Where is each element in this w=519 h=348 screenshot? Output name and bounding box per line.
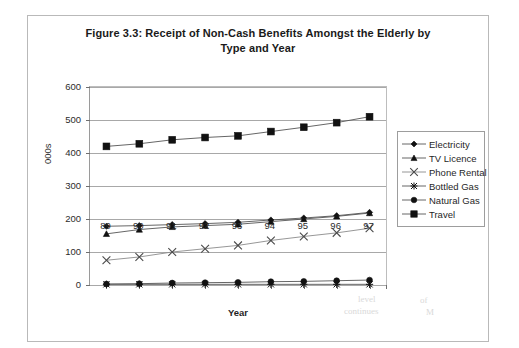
y-tick-label-300: 300	[47, 180, 81, 191]
legend-marker-circle-icon	[401, 194, 427, 206]
scan-artifact-2: continues	[344, 306, 379, 316]
legend-item-travel[interactable]: Travel	[401, 207, 480, 221]
x-tick-label-95: 95	[290, 220, 316, 231]
figure-frame: Figure 3.3: Receipt of Non-Cash Benefits…	[27, 15, 489, 342]
chart-title-line-2: Type and Year	[68, 41, 448, 56]
x-tick-label-94: 94	[257, 220, 283, 231]
chart-legend: ElectricityTV LicencePhone RentalBottled…	[397, 131, 485, 227]
legend-item-electricity[interactable]: Electricity	[401, 137, 480, 151]
y-tick-label-200: 200	[47, 213, 81, 224]
x-tick-label-89: 89	[92, 220, 118, 231]
legend-label: Phone Rental	[427, 167, 487, 178]
legend-marker-diamond-icon	[401, 138, 427, 150]
legend-item-natural-gas[interactable]: Natural Gas	[401, 193, 480, 207]
legend-label: Natural Gas	[427, 195, 480, 206]
x-tick-label-91: 91	[158, 220, 184, 231]
x-tick-label-93: 93	[224, 220, 250, 231]
y-tick-label-0: 0	[47, 279, 81, 290]
y-tick-label-500: 500	[47, 114, 81, 125]
scan-artifact-3: of	[420, 295, 428, 305]
y-tick-label-600: 600	[47, 81, 81, 92]
series-travel	[103, 113, 373, 150]
legend-label: TV Licence	[427, 153, 477, 164]
legend-label: Electricity	[427, 139, 470, 150]
legend-marker-square-icon	[401, 208, 427, 220]
legend-label: Travel	[427, 209, 455, 220]
series-lines	[90, 87, 386, 285]
plot-area	[89, 86, 387, 286]
x-tick-mark-end	[386, 285, 387, 289]
x-tick-label-90: 90	[125, 220, 151, 231]
legend-marker-cross-icon	[401, 166, 427, 178]
legend-label: Bottled Gas	[427, 181, 479, 192]
legend-item-tv-licence[interactable]: TV Licence	[401, 151, 480, 165]
legend-item-phone-rental[interactable]: Phone Rental	[401, 165, 480, 179]
legend-item-bottled-gas[interactable]: Bottled Gas	[401, 179, 480, 193]
legend-marker-triangle-icon	[401, 152, 427, 164]
y-tick-label-100: 100	[47, 246, 81, 257]
legend-marker-star-icon	[401, 180, 427, 192]
scan-artifact-4: M	[426, 307, 434, 317]
y-tick-label-400: 400	[47, 147, 81, 158]
y-tick-mark-0	[86, 285, 90, 286]
chart-title-line-1: Figure 3.3: Receipt of Non-Cash Benefits…	[68, 26, 448, 41]
chart-title: Figure 3.3: Receipt of Non-Cash Benefits…	[68, 26, 448, 56]
x-tick-label-96: 96	[323, 220, 349, 231]
x-tick-label-97: 97	[356, 220, 382, 231]
x-axis-title: Year	[89, 307, 387, 318]
scan-artifact-1: level	[358, 294, 376, 304]
x-tick-label-92: 92	[191, 220, 217, 231]
